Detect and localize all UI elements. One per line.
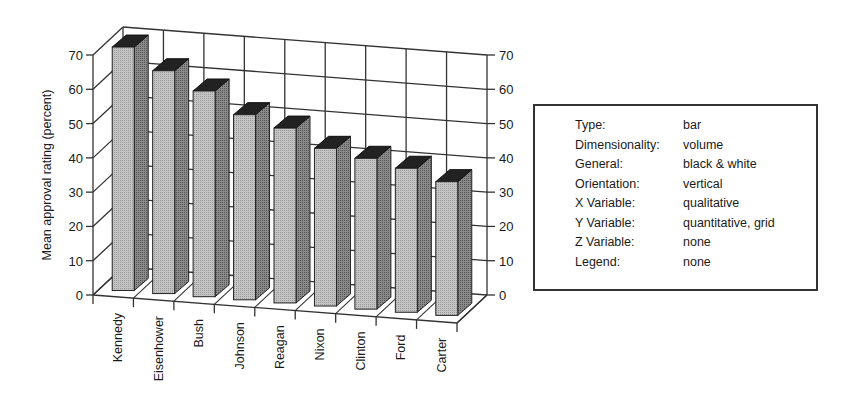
bar-johnson: [234, 103, 270, 300]
y-tick-label-left: 60: [69, 82, 83, 97]
y-tick-label-left: 70: [69, 48, 83, 63]
x-category-label: Clinton: [354, 331, 368, 370]
info-key: Legend:: [575, 255, 620, 270]
y-tick-label-right: 20: [499, 219, 513, 234]
x-category-label: Eisenhower: [152, 316, 166, 381]
info-value: none: [683, 235, 711, 250]
bar-eisenhower: [153, 59, 189, 294]
y-tick-label-right: 30: [499, 185, 513, 200]
chart-bars: [112, 35, 472, 315]
y-tick-label-right: 10: [499, 254, 513, 269]
y-tick-label-right: 0: [499, 288, 506, 303]
y-tick-label-right: 50: [499, 117, 513, 132]
info-key: Z Variable:: [575, 235, 635, 250]
y-tick-label-left: 10: [69, 254, 83, 269]
info-value: black & white: [683, 157, 757, 172]
y-tick-label-left: 30: [69, 185, 83, 200]
info-value: none: [683, 255, 711, 270]
info-value: bar: [683, 118, 701, 133]
info-value: quantitative, grid: [683, 216, 775, 231]
y-tick-label-left: 50: [69, 117, 83, 132]
y-tick-label-right: 40: [499, 151, 513, 166]
x-category-label: Bush: [192, 319, 206, 348]
info-key: General:: [575, 157, 623, 172]
chart-properties-box: Type:barDimensionality:volumeGeneral:bla…: [533, 104, 818, 291]
bar-carter: [436, 170, 472, 316]
y-tick-label-right: 60: [499, 82, 513, 97]
info-key: Y Variable:: [575, 216, 635, 231]
x-category-label: Nixon: [313, 328, 327, 360]
info-value: vertical: [683, 177, 723, 192]
x-category-label: Reagan: [273, 325, 287, 369]
x-category-label: Ford: [394, 335, 408, 361]
info-key: Dimensionality:: [575, 138, 660, 153]
bar-ford: [395, 156, 431, 312]
bar-reagan: [274, 116, 310, 303]
x-category-label: Johnson: [233, 322, 247, 369]
bar-clinton: [355, 146, 391, 309]
info-value: volume: [683, 138, 723, 153]
y-tick-label-left: 20: [69, 219, 83, 234]
x-category-label: Carter: [435, 338, 449, 373]
y-tick-label-left: 0: [76, 288, 83, 303]
info-key: X Variable:: [575, 196, 635, 211]
y-tick-label-right: 70: [499, 48, 513, 63]
y-axis-title: Mean approval rating (percent): [40, 90, 54, 261]
bar-bush: [193, 79, 229, 297]
bar-nixon: [314, 136, 350, 306]
info-key: Orientation:: [575, 177, 640, 192]
y-tick-label-left: 40: [69, 151, 83, 166]
bar-kennedy: [112, 35, 148, 290]
info-value: qualitative: [683, 196, 739, 211]
x-category-label: Kennedy: [111, 312, 125, 362]
info-key: Type:: [575, 118, 606, 133]
